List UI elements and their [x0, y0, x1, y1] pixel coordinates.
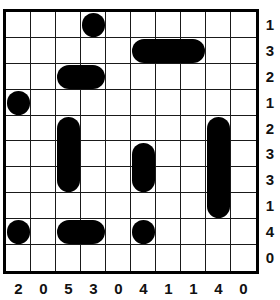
grid-cell[interactable]	[31, 141, 56, 167]
column-clue: 3	[81, 281, 106, 296]
column-clue: 2	[6, 281, 31, 296]
grid-cell[interactable]	[6, 167, 31, 193]
grid-cell[interactable]	[6, 12, 31, 38]
ship-icon	[132, 143, 155, 193]
grid-cell[interactable]	[31, 245, 56, 271]
grid-cell[interactable]	[156, 219, 181, 245]
column-clue: 0	[231, 281, 256, 296]
grid-cell[interactable]	[6, 38, 31, 64]
grid-cell[interactable]	[131, 245, 156, 271]
ship-icon	[57, 65, 105, 89]
grid-cell[interactable]	[6, 116, 31, 142]
grid-cell[interactable]	[231, 141, 256, 167]
grid-cell[interactable]	[156, 64, 181, 90]
column-clue: 0	[31, 281, 56, 296]
grid-cell[interactable]	[56, 38, 81, 64]
grid-cell[interactable]	[131, 116, 156, 142]
grid-cell[interactable]	[131, 12, 156, 38]
grid-cell[interactable]	[31, 193, 56, 219]
grid-cell[interactable]	[106, 116, 131, 142]
grid-cell[interactable]	[206, 245, 231, 271]
grid-cell[interactable]	[106, 90, 131, 116]
grid-cell[interactable]	[231, 38, 256, 64]
grid-cell[interactable]	[231, 219, 256, 245]
grid-cell[interactable]	[81, 245, 106, 271]
grid-cell[interactable]	[181, 219, 206, 245]
grid-cell[interactable]	[106, 64, 131, 90]
grid-cell[interactable]	[31, 219, 56, 245]
grid-cell[interactable]	[231, 245, 256, 271]
grid-cell[interactable]	[81, 141, 106, 167]
grid-cell[interactable]	[156, 90, 181, 116]
submarine-icon	[82, 13, 105, 37]
grid-cell[interactable]	[181, 245, 206, 271]
grid-cell[interactable]	[181, 90, 206, 116]
grid-cell[interactable]	[6, 245, 31, 271]
grid-cell[interactable]	[56, 193, 81, 219]
grid-cell[interactable]	[206, 90, 231, 116]
ship-icon	[57, 220, 105, 244]
grid-cell[interactable]	[6, 64, 31, 90]
row-clue: 0	[263, 250, 277, 265]
grid-cell[interactable]	[181, 64, 206, 90]
grid-cell[interactable]	[81, 90, 106, 116]
grid-cell[interactable]	[181, 12, 206, 38]
puzzle-board	[3, 9, 259, 274]
grid-cell[interactable]	[181, 116, 206, 142]
grid-cell[interactable]	[231, 167, 256, 193]
grid-cell[interactable]	[31, 38, 56, 64]
ship-icon	[132, 39, 205, 63]
grid-cell[interactable]	[81, 38, 106, 64]
submarine-icon	[7, 220, 30, 244]
column-clue: 4	[206, 281, 231, 296]
grid-cell[interactable]	[181, 141, 206, 167]
column-clue: 5	[56, 281, 81, 296]
grid-cell[interactable]	[231, 90, 256, 116]
grid-cell[interactable]	[131, 64, 156, 90]
grid-cell[interactable]	[56, 12, 81, 38]
grid-cell[interactable]	[106, 219, 131, 245]
grid-cell[interactable]	[106, 193, 131, 219]
grid-cell[interactable]	[131, 193, 156, 219]
grid-cell[interactable]	[56, 90, 81, 116]
column-clue: 1	[156, 281, 181, 296]
grid-cell[interactable]	[156, 245, 181, 271]
grid-cell[interactable]	[81, 116, 106, 142]
grid-cell[interactable]	[131, 90, 156, 116]
submarine-icon	[132, 220, 155, 244]
grid-cell[interactable]	[206, 219, 231, 245]
grid-cell[interactable]	[106, 12, 131, 38]
grid-cell[interactable]	[106, 38, 131, 64]
row-clue: 3	[263, 43, 277, 58]
grid-cell[interactable]	[81, 167, 106, 193]
row-clue: 2	[263, 121, 277, 136]
grid-cell[interactable]	[106, 167, 131, 193]
grid-cell[interactable]	[156, 141, 181, 167]
grid-cell[interactable]	[231, 12, 256, 38]
grid-cell[interactable]	[206, 12, 231, 38]
grid-cell[interactable]	[156, 167, 181, 193]
grid-cell[interactable]	[156, 12, 181, 38]
grid-cell[interactable]	[6, 193, 31, 219]
grid-cell[interactable]	[31, 167, 56, 193]
grid-cell[interactable]	[6, 141, 31, 167]
grid-cell[interactable]	[156, 116, 181, 142]
grid-cell[interactable]	[206, 64, 231, 90]
grid-cell[interactable]	[231, 193, 256, 219]
grid-cell[interactable]	[106, 245, 131, 271]
grid-cell[interactable]	[31, 90, 56, 116]
grid-cell[interactable]	[31, 12, 56, 38]
grid-cell[interactable]	[106, 141, 131, 167]
row-clue: 1	[263, 95, 277, 110]
grid-cell[interactable]	[206, 38, 231, 64]
grid-cell[interactable]	[31, 64, 56, 90]
grid-cell[interactable]	[231, 116, 256, 142]
grid-cell[interactable]	[231, 64, 256, 90]
grid-cell[interactable]	[81, 193, 106, 219]
grid-cell[interactable]	[181, 167, 206, 193]
grid-cell[interactable]	[156, 193, 181, 219]
grid-cell[interactable]	[31, 116, 56, 142]
row-clue: 3	[263, 172, 277, 187]
grid-cell[interactable]	[56, 245, 81, 271]
grid-cell[interactable]	[181, 193, 206, 219]
